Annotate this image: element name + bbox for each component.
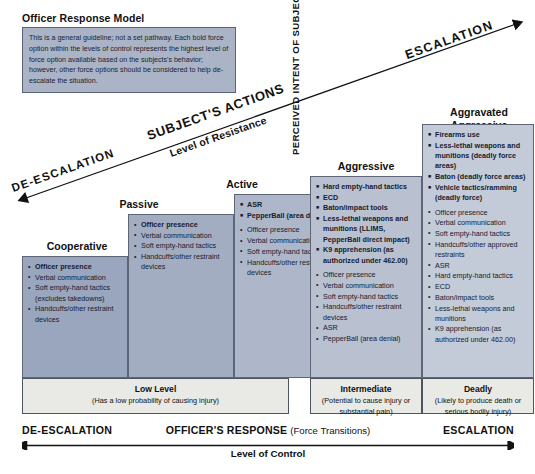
list-item: ASR — [316, 323, 416, 333]
diagonal-escalation-label: ESCALATION — [403, 18, 495, 62]
diagonal-deescalation-label: DE-ESCALATION — [10, 147, 116, 194]
list-item: Verbal communication — [28, 273, 122, 283]
list-item: Handcuffs/other restraint devices — [28, 304, 122, 324]
list-item: Officer presence — [28, 262, 122, 272]
column-box-aggravated-aggressive: Firearms use Less-lethal weapons and mun… — [422, 124, 534, 378]
level-name: Deadly — [423, 383, 533, 395]
bottom-escalation-label: ESCALATION — [443, 424, 514, 436]
list-item: K9 apprehension (as authorized under 462… — [316, 245, 416, 265]
perceived-intent-axis-label: PERCEIVED INTENT OF SUBJECT TO HARM — [290, 0, 301, 155]
bottom-axis-sublabel: Level of Control — [22, 448, 514, 459]
list-item: Vehicle tactics/ramming (deadly force) — [428, 183, 528, 203]
option-list-cooperative: Officer presence Verbal communication So… — [28, 262, 122, 325]
list-item: ECD — [428, 282, 528, 292]
guideline-note: This is a general guideline; not a set p… — [22, 27, 236, 93]
level-cell-intermediate: Intermediate (Potential to cause injury … — [310, 378, 422, 414]
bottom-axis-name: OFFICER'S RESPONSE — [166, 424, 288, 436]
officers-response-axis: DE-ESCALATION OFFICER'S RESPONSE (Force … — [22, 424, 514, 438]
option-list-aggravated: Officer presence Verbal communication So… — [428, 208, 528, 345]
list-item: Handcuffs/other restraint devices — [316, 302, 416, 322]
list-item: Handcuffs/other approved restraints — [428, 240, 528, 260]
list-item: Officer presence — [134, 220, 228, 230]
column-heading-passive: Passive — [84, 198, 194, 211]
bottom-axis-name-suffix: (Force Transitions) — [290, 425, 370, 436]
column-heading-cooperative: Cooperative — [22, 240, 132, 253]
list-item: ASR — [428, 261, 528, 271]
page-title: Officer Response Model — [22, 12, 144, 24]
level-description: (Likely to produce death or serious bodi… — [435, 396, 521, 415]
heading-line-1: Aggravated — [450, 106, 508, 118]
list-item: Soft empty-hand tactics (excludes takedo… — [28, 283, 122, 303]
column-box-aggressive: Hard empty-hand tactics ECD Baton/impact… — [310, 176, 422, 378]
list-item: Officer presence — [428, 208, 528, 218]
list-item: Verbal communication — [428, 218, 528, 228]
list-item: Less-lethal weapons and munitions — [428, 304, 528, 324]
level-name: Intermediate — [311, 383, 421, 395]
column-heading-aggressive: Aggressive — [312, 160, 420, 173]
list-item: Hard empty-hand tactics — [316, 182, 416, 192]
list-item: Less-lethal weapons and munitions (deadl… — [428, 141, 528, 172]
bottom-axis-title: OFFICER'S RESPONSE (Force Transitions) — [22, 424, 514, 436]
option-list-passive: Officer presence Verbal communication So… — [134, 220, 228, 273]
list-item: Less-lethal weapons and munitions (LLIMS… — [316, 214, 416, 245]
list-item: Soft empty-hand tactics — [316, 292, 416, 302]
list-item: Baton (deadly force areas) — [428, 172, 528, 182]
option-list-aggressive: Officer presence Verbal communication So… — [316, 270, 416, 344]
column-box-passive: Officer presence Verbal communication So… — [128, 214, 234, 378]
level-cell-deadly: Deadly (Likely to produce death or serio… — [422, 378, 534, 414]
column-heading-active: Active — [190, 178, 294, 191]
list-item: Baton/impact tools — [428, 293, 528, 303]
list-item: Hard empty-hand tactics — [428, 271, 528, 281]
level-description: (Potential to cause injury or substantia… — [322, 396, 410, 415]
list-item: ECD — [316, 193, 416, 203]
list-item: Soft empty-hand tactics — [428, 229, 528, 239]
level-description: (Has a low probability of causing injury… — [92, 396, 219, 405]
column-box-cooperative: Officer presence Verbal communication So… — [22, 256, 128, 378]
option-list-aggressive-bold: Hard empty-hand tactics ECD Baton/impact… — [316, 182, 416, 266]
list-item: Officer presence — [316, 270, 416, 280]
list-item: Firearms use — [428, 130, 528, 140]
list-item: Handcuffs/other restraint devices — [134, 252, 228, 272]
bottom-axis-labels: DE-ESCALATION OFFICER'S RESPONSE (Force … — [22, 424, 514, 438]
list-item: PepperBall (area denial) — [316, 334, 416, 344]
diagonal-axis-sublabel: Level of Resistance — [168, 114, 268, 159]
level-cell-low: Low Level (Has a low probability of caus… — [22, 378, 289, 414]
list-item: Verbal communication — [134, 231, 228, 241]
list-item: K9 apprehension (as authorized under 462… — [428, 324, 528, 344]
list-item: Verbal communication — [316, 281, 416, 291]
level-name: Low Level — [23, 383, 288, 395]
option-list-aggravated-bold: Firearms use Less-lethal weapons and mun… — [428, 130, 528, 203]
list-item: Baton/impact tools — [316, 203, 416, 213]
list-item: Soft empty-hand tactics — [134, 241, 228, 251]
